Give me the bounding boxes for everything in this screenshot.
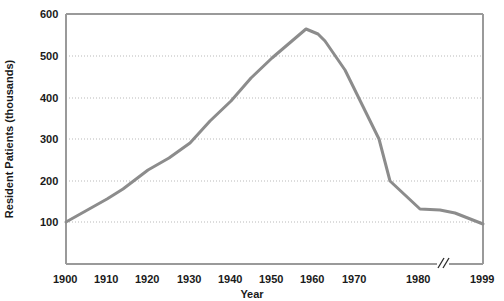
x-tick-1940: 1940 (218, 273, 242, 285)
x-axis-title: Year (240, 288, 263, 300)
y-tick-600: 600 (40, 8, 58, 20)
x-tick-1950: 1950 (259, 273, 283, 285)
y-tick-500: 500 (40, 50, 58, 62)
y-tick-400: 400 (40, 92, 58, 104)
x-tick-1920: 1920 (135, 273, 159, 285)
x-tick-1930: 1930 (177, 273, 201, 285)
x-tick-1900: 1900 (53, 273, 77, 285)
x-tick-1960: 1960 (300, 273, 324, 285)
x-tick-1910: 1910 (94, 273, 118, 285)
data-series-line (66, 29, 483, 224)
y-tick-300: 300 (40, 133, 58, 145)
y-axis-title: Resident Patients (thousands) (3, 60, 15, 219)
gridlines (66, 56, 483, 222)
x-tick-1980: 1980 (406, 273, 430, 285)
x-tick-1999: 1999 (470, 273, 494, 285)
y-tick-200: 200 (40, 175, 58, 187)
y-tick-100: 100 (40, 216, 58, 228)
x-tick-1970: 1970 (342, 273, 366, 285)
chart-container: Resident Patients (thousands) 600 500 40… (0, 0, 504, 301)
axis-break-icon (438, 258, 449, 268)
line-chart-plot: Resident Patients (thousands) (0, 0, 504, 301)
